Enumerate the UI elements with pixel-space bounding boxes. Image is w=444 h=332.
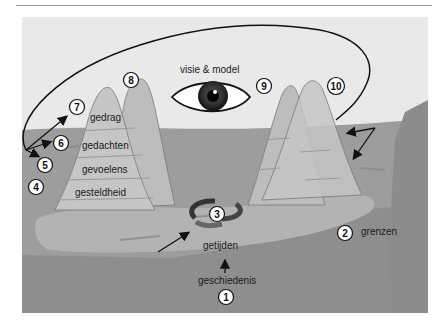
svg-text:1: 1 xyxy=(223,292,229,303)
svg-text:8: 8 xyxy=(128,75,134,86)
marker-10: 10 xyxy=(328,78,345,95)
label-grenzen: grenzen xyxy=(361,226,397,237)
marker-8: 8 xyxy=(124,73,139,88)
label-gedrag: gedrag xyxy=(90,112,121,123)
label-gedachten: gedachten xyxy=(82,140,129,151)
marker-6: 6 xyxy=(54,136,69,151)
label-gesteldheid: gesteldheid xyxy=(75,187,126,198)
svg-text:10: 10 xyxy=(330,81,342,92)
marker-2: 2 xyxy=(338,226,353,241)
svg-text:3: 3 xyxy=(214,209,220,220)
svg-text:2: 2 xyxy=(342,228,348,239)
marker-3: 3 xyxy=(210,207,225,222)
iceberg-diagram: visie & model gedrag gedachten gevoelens… xyxy=(0,0,444,332)
svg-text:4: 4 xyxy=(33,182,39,193)
marker-5: 5 xyxy=(38,158,53,173)
svg-text:6: 6 xyxy=(58,138,64,149)
svg-text:7: 7 xyxy=(74,102,80,113)
label-visie-model: visie & model xyxy=(180,64,239,75)
label-gevoelens: gevoelens xyxy=(82,164,128,175)
svg-text:9: 9 xyxy=(261,81,267,92)
label-geschiedenis: geschiedenis xyxy=(198,275,256,286)
marker-7: 7 xyxy=(70,100,85,115)
label-getijden: getijden xyxy=(203,240,238,251)
svg-text:5: 5 xyxy=(42,160,48,171)
marker-4: 4 xyxy=(29,180,44,195)
marker-1: 1 xyxy=(219,290,234,305)
marker-9: 9 xyxy=(257,79,272,94)
